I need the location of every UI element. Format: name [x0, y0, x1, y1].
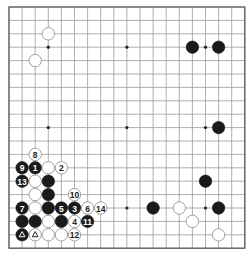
white-stone[interactable]: 6: [81, 202, 93, 214]
move-number-label: 9: [20, 163, 25, 173]
move-number-label: 4: [72, 217, 77, 227]
black-stone[interactable]: [42, 188, 54, 200]
star-point: [125, 206, 128, 209]
black-stone[interactable]: 9: [16, 162, 28, 174]
black-stone-circle: [42, 188, 54, 200]
black-stone-circle: [147, 202, 159, 214]
white-stone[interactable]: [55, 229, 67, 241]
white-stone-circle: [55, 229, 67, 241]
white-stone[interactable]: [42, 215, 54, 227]
move-number-label: 12: [70, 230, 80, 240]
black-stone[interactable]: 11: [81, 215, 93, 227]
black-stone[interactable]: [186, 41, 198, 53]
white-stone[interactable]: [42, 229, 54, 241]
black-stone-circle: [212, 202, 224, 214]
black-stone[interactable]: 13: [16, 175, 28, 187]
black-stone-circle: [42, 175, 54, 187]
star-point: [125, 126, 128, 129]
black-stone[interactable]: [42, 202, 54, 214]
black-stone[interactable]: 5: [55, 202, 67, 214]
black-stone-circle: [212, 41, 224, 53]
white-stone-circle: [29, 175, 41, 187]
white-stone[interactable]: [42, 28, 54, 40]
black-stone[interactable]: [147, 202, 159, 214]
move-number-label: 13: [17, 177, 27, 187]
white-stone[interactable]: [173, 202, 185, 214]
black-stone[interactable]: [212, 121, 224, 133]
black-stone[interactable]: [212, 41, 224, 53]
black-stone[interactable]: [42, 175, 54, 187]
move-number-label: 8: [33, 150, 38, 160]
move-number-label: 5: [59, 204, 64, 214]
star-point: [47, 46, 50, 49]
white-stone-circle: [42, 229, 54, 241]
white-stone[interactable]: [29, 188, 41, 200]
black-stone-circle: [55, 215, 67, 227]
white-stone-circle: [29, 188, 41, 200]
white-stone-circle: [42, 162, 54, 174]
black-stone[interactable]: 1: [29, 162, 41, 174]
move-number-label: 2: [59, 163, 64, 173]
white-stone[interactable]: [42, 162, 54, 174]
move-number-label: 7: [20, 204, 25, 214]
white-stone[interactable]: 12: [68, 229, 80, 241]
move-number-label: 11: [83, 217, 92, 227]
white-stone[interactable]: [186, 215, 198, 227]
black-stone[interactable]: 7: [16, 202, 28, 214]
go-board[interactable]: 8912131075361441112: [0, 0, 251, 262]
white-stone-circle: [186, 215, 198, 227]
move-number-label: 14: [96, 204, 106, 214]
stones-layer: 8912131075361441112: [16, 28, 225, 241]
black-stone-circle: [16, 215, 28, 227]
white-stone-circle: [29, 229, 41, 241]
black-stone[interactable]: [16, 229, 28, 241]
black-stone-circle: [16, 229, 28, 241]
black-stone[interactable]: [199, 175, 211, 187]
white-stone[interactable]: 2: [55, 162, 67, 174]
star-point: [125, 46, 128, 49]
white-stone-circle: [29, 54, 41, 66]
black-stone[interactable]: [29, 215, 41, 227]
star-point: [204, 126, 207, 129]
white-stone-circle: [42, 215, 54, 227]
black-stone-circle: [212, 121, 224, 133]
go-board-canvas[interactable]: 8912131075361441112: [0, 0, 251, 262]
black-stone-circle: [42, 202, 54, 214]
white-stone-circle: [29, 202, 41, 214]
move-number-label: 10: [70, 190, 80, 200]
white-stone[interactable]: 4: [68, 215, 80, 227]
black-stone[interactable]: [16, 215, 28, 227]
move-number-label: 3: [72, 204, 77, 214]
move-number-label: 6: [85, 204, 90, 214]
white-stone-circle: [42, 28, 54, 40]
black-stone-circle: [199, 175, 211, 187]
white-stone-circle: [212, 229, 224, 241]
white-stone[interactable]: [29, 54, 41, 66]
star-point: [204, 206, 207, 209]
star-point: [47, 126, 50, 129]
white-stone[interactable]: [29, 175, 41, 187]
white-stone[interactable]: 10: [68, 188, 80, 200]
white-stone[interactable]: 8: [29, 148, 41, 160]
black-stone[interactable]: [212, 202, 224, 214]
black-stone[interactable]: [55, 215, 67, 227]
move-number-label: 1: [33, 163, 38, 173]
black-stone[interactable]: 3: [68, 202, 80, 214]
white-stone[interactable]: [212, 229, 224, 241]
black-stone-circle: [29, 215, 41, 227]
white-stone[interactable]: [29, 202, 41, 214]
black-stone-circle: [186, 41, 198, 53]
star-point: [204, 46, 207, 49]
white-stone-circle: [173, 202, 185, 214]
white-stone[interactable]: 14: [95, 202, 107, 214]
white-stone[interactable]: [29, 229, 41, 241]
